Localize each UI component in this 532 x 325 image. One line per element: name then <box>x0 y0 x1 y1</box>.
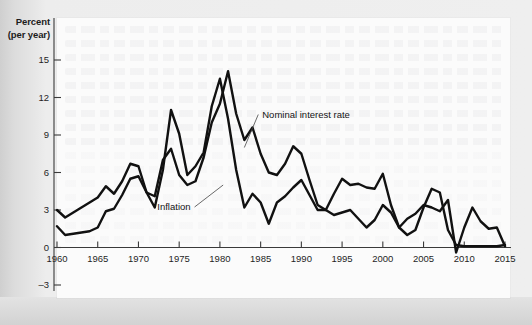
series-line-nominal-interest-rate <box>57 71 505 246</box>
y-tick-label: 9 <box>44 129 49 140</box>
x-tick-label: 1990 <box>291 253 312 264</box>
x-tick-label: 1965 <box>87 253 108 264</box>
figure-container: Percent (per year) 15129630–3 1960196519… <box>0 0 532 325</box>
x-tick-label: 1970 <box>128 253 149 264</box>
line-chart: 15129630–3 19601965197019751980198519901… <box>0 0 532 325</box>
series-annotation-label: Inflation <box>157 201 190 212</box>
y-tick-label: 0 <box>44 242 49 253</box>
annotation-leader-line <box>195 185 224 207</box>
x-tick-label: 2015 <box>494 253 515 264</box>
y-tick-label: 15 <box>38 54 49 65</box>
x-tick-label: 1995 <box>332 253 353 264</box>
y-tick-label: 6 <box>44 167 49 178</box>
series-line-inflation <box>57 79 505 253</box>
x-tick-label: 1975 <box>169 253 190 264</box>
series-annotation-label: Nominal interest rate <box>262 109 350 120</box>
x-tick-label: 1980 <box>209 253 230 264</box>
x-axis-ticks: 1960196519701975198019851990199520002005… <box>46 242 515 264</box>
y-tick-label: 12 <box>38 92 49 103</box>
x-tick-label: 2010 <box>454 253 475 264</box>
data-series-group <box>57 71 505 252</box>
y-tick-label: 3 <box>44 204 49 215</box>
x-tick-label: 2005 <box>413 253 434 264</box>
y-tick-label: –3 <box>38 279 49 290</box>
x-tick-label: 1960 <box>46 253 67 264</box>
x-tick-label: 2000 <box>372 253 393 264</box>
x-tick-label: 1985 <box>250 253 271 264</box>
